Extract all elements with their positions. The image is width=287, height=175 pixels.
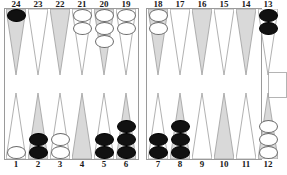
point-label-19: 19 xyxy=(116,0,136,9)
checker-white-point-21[interactable] xyxy=(73,9,92,22)
point-label-18: 18 xyxy=(148,0,168,9)
point-triangle-15[interactable] xyxy=(214,9,234,75)
board-bar[interactable] xyxy=(138,8,147,160)
point-triangle-4[interactable] xyxy=(72,93,92,159)
point-label-17: 17 xyxy=(170,0,190,9)
checker-white-point-12[interactable] xyxy=(259,120,278,133)
point-triangle-17[interactable] xyxy=(170,9,190,75)
checker-white-point-18[interactable] xyxy=(149,9,168,22)
point-label-24: 24 xyxy=(6,0,26,9)
point-label-9: 9 xyxy=(192,160,212,169)
checker-white-point-18[interactable] xyxy=(149,22,168,35)
checker-black-point-8[interactable] xyxy=(171,133,190,146)
point-label-7: 7 xyxy=(148,160,168,169)
point-label-11: 11 xyxy=(236,160,256,169)
checker-black-point-2[interactable] xyxy=(29,146,48,159)
point-label-10: 10 xyxy=(214,160,234,169)
checker-white-point-19[interactable] xyxy=(117,22,136,35)
checker-black-point-8[interactable] xyxy=(171,120,190,133)
checker-white-point-12[interactable] xyxy=(259,146,278,159)
point-triangle-22[interactable] xyxy=(50,9,70,75)
checker-black-point-5[interactable] xyxy=(95,146,114,159)
checker-white-point-20[interactable] xyxy=(95,22,114,35)
point-label-8: 8 xyxy=(170,160,190,169)
point-label-21: 21 xyxy=(72,0,92,9)
checker-white-point-20[interactable] xyxy=(95,9,114,22)
checker-black-point-13[interactable] xyxy=(259,22,278,35)
point-label-3: 3 xyxy=(50,160,70,169)
point-label-5: 5 xyxy=(94,160,114,169)
point-triangle-10[interactable] xyxy=(214,93,234,159)
point-label-12: 12 xyxy=(258,160,278,169)
checker-black-point-6[interactable] xyxy=(117,133,136,146)
checker-white-point-1[interactable] xyxy=(7,146,26,159)
checker-white-point-21[interactable] xyxy=(73,22,92,35)
point-label-22: 22 xyxy=(50,0,70,9)
checker-black-point-6[interactable] xyxy=(117,146,136,159)
checker-black-point-2[interactable] xyxy=(29,133,48,146)
checker-white-point-19[interactable] xyxy=(117,9,136,22)
checker-white-point-3[interactable] xyxy=(51,133,70,146)
point-label-14: 14 xyxy=(236,0,256,9)
point-label-1: 1 xyxy=(6,160,26,169)
point-label-16: 16 xyxy=(192,0,212,9)
checker-black-point-13[interactable] xyxy=(259,9,278,22)
point-label-15: 15 xyxy=(214,0,234,9)
checker-black-point-24[interactable] xyxy=(7,9,26,22)
point-triangle-16[interactable] xyxy=(192,9,212,75)
point-triangle-14[interactable] xyxy=(236,9,256,75)
checker-white-point-20[interactable] xyxy=(95,35,114,48)
checker-white-point-12[interactable] xyxy=(259,133,278,146)
point-triangle-9[interactable] xyxy=(192,93,212,159)
checker-black-point-6[interactable] xyxy=(117,120,136,133)
point-label-6: 6 xyxy=(116,160,136,169)
checker-black-point-7[interactable] xyxy=(149,133,168,146)
point-triangle-11[interactable] xyxy=(236,93,256,159)
checker-white-point-3[interactable] xyxy=(51,146,70,159)
checker-black-point-7[interactable] xyxy=(149,146,168,159)
point-label-4: 4 xyxy=(72,160,92,169)
point-label-13: 13 xyxy=(258,0,278,9)
backgammon-board: 242322212019181716151413123456789101112 xyxy=(0,0,287,175)
checker-black-point-5[interactable] xyxy=(95,133,114,146)
checker-black-point-8[interactable] xyxy=(171,146,190,159)
point-label-23: 23 xyxy=(28,0,48,9)
point-label-20: 20 xyxy=(94,0,114,9)
point-triangle-23[interactable] xyxy=(28,9,48,75)
point-label-2: 2 xyxy=(28,160,48,169)
